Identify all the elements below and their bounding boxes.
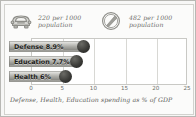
bar-health: Health 6% <box>9 71 68 82</box>
gridline <box>157 39 158 84</box>
telephone-dial-icon <box>99 10 125 32</box>
stat-label-cars: 220 per 1000 population <box>38 14 81 29</box>
bar-chart: Defense 8.9% Education 7.7% Health 6% <box>9 38 187 85</box>
bar-row-defense: Defense 8.9% <box>9 41 86 52</box>
bar-row-education: Education 7.7% <box>9 56 79 67</box>
bar-cap-icon <box>77 40 90 53</box>
x-axis: 0 5 10 15 20 25 <box>31 85 187 94</box>
bar-label-education: Education 7.7% <box>9 58 70 66</box>
car-icon <box>8 10 34 32</box>
x-tick-2: 10 <box>90 85 97 91</box>
gridline <box>94 39 95 84</box>
bar-education: Education 7.7% <box>9 56 79 67</box>
x-tick-4: 20 <box>152 85 159 91</box>
bar-label-defense: Defense 8.9% <box>9 43 63 51</box>
gridline <box>126 39 127 84</box>
stats-row: 220 per 1000 population 482 per 1000 pop… <box>5 5 187 37</box>
stat-item-telephones: 482 per 1000 population <box>96 5 187 37</box>
bar-label-health: Health 6% <box>9 73 51 81</box>
chart-caption: Defense, Health, Education spending as %… <box>10 96 188 103</box>
bar-row-health: Health 6% <box>9 71 68 82</box>
x-tick-1: 5 <box>60 85 64 91</box>
x-tick-5: 25 <box>183 85 190 91</box>
x-tick-3: 15 <box>121 85 128 91</box>
x-tick-0: 0 <box>29 85 33 91</box>
infographic-panel: 220 per 1000 population 482 per 1000 pop… <box>0 0 196 117</box>
stat-item-cars: 220 per 1000 population <box>5 5 96 37</box>
bar-cap-icon <box>59 70 72 83</box>
stat-label-telephones: 482 per 1000 population <box>129 14 172 29</box>
bar-cap-icon <box>70 55 83 68</box>
bar-defense: Defense 8.9% <box>9 41 86 52</box>
